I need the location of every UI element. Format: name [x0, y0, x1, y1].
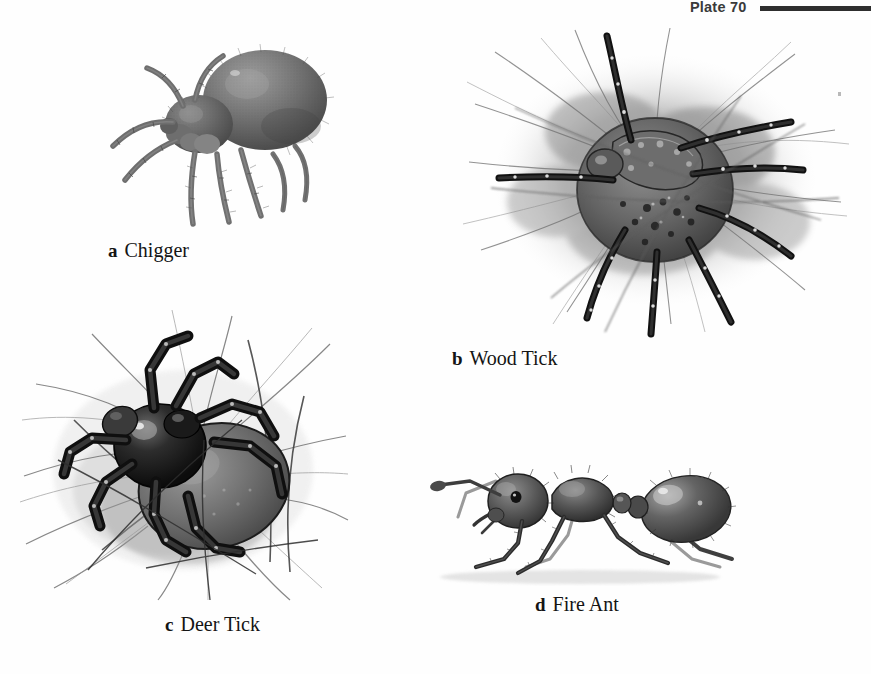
figure-deer-tick	[18, 300, 348, 600]
running-head-rule	[760, 6, 871, 11]
plate-page: Plate 70	[0, 0, 871, 674]
caption-fire-ant: dFire Ant	[535, 594, 619, 614]
caption-chigger: aChigger	[108, 240, 189, 260]
fire-ant-illustration	[400, 455, 750, 590]
wood-tick-illustration	[455, 12, 855, 342]
caption-name-chigger: Chigger	[125, 239, 189, 261]
figure-chigger	[95, 28, 345, 228]
caption-name-deer-tick: Deer Tick	[180, 613, 259, 635]
caption-wood-tick: bWood Tick	[452, 348, 557, 368]
caption-letter-d: d	[535, 594, 546, 615]
caption-name-fire-ant: Fire Ant	[553, 593, 619, 615]
caption-letter-b: b	[452, 348, 463, 369]
caption-letter-a: a	[108, 240, 118, 261]
caption-deer-tick: cDeer Tick	[165, 614, 260, 634]
chigger-illustration	[95, 28, 345, 228]
deer-tick-illustration	[18, 300, 348, 600]
figure-fire-ant	[400, 455, 750, 590]
caption-name-wood-tick: Wood Tick	[470, 347, 558, 369]
caption-letter-c: c	[165, 614, 173, 635]
figure-wood-tick	[455, 12, 855, 342]
